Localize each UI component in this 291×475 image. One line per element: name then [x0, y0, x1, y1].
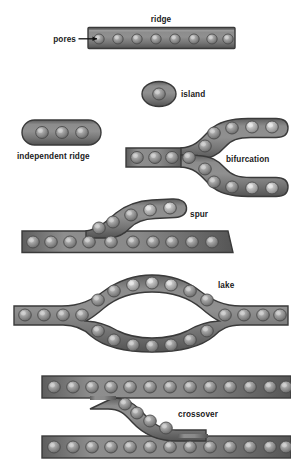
label-ridge: ridge: [151, 15, 172, 24]
label-island: island: [181, 90, 205, 99]
label-crossover: crossover: [178, 410, 219, 419]
label-pores: pores: [53, 35, 76, 44]
fingerprint-ridge-diagram: ridge pores island independent ridge: [0, 0, 291, 475]
label-spur: spur: [190, 210, 209, 219]
label-bifurcation: bifurcation: [226, 155, 269, 164]
label-independent-ridge: independent ridge: [17, 152, 90, 161]
feature-independent-ridge: independent ridge: [17, 120, 101, 161]
label-lake: lake: [218, 281, 235, 290]
